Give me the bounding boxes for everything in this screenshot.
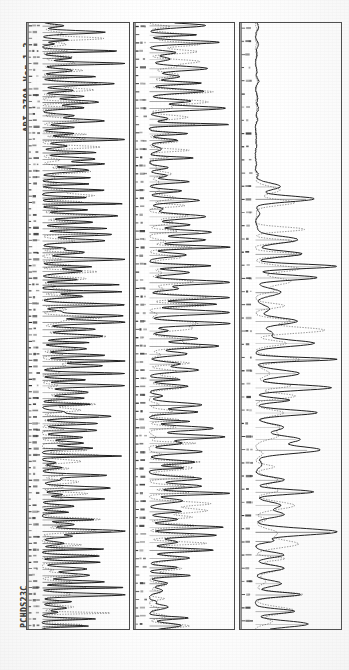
trace-plot-panel-2 <box>147 23 234 629</box>
trace-panel-3 <box>239 22 342 630</box>
base-call-axis-panel-3 <box>240 23 253 629</box>
printout-page: ABI 370A Ver 1.3 PCHDS23C <box>0 0 349 670</box>
trace-panel-2 <box>133 22 235 630</box>
trace-panel-1 <box>26 22 130 630</box>
trace-plot-panel-1 <box>40 23 129 629</box>
base-call-axis-panel-1 <box>27 23 40 629</box>
base-call-axis-panel-2 <box>134 23 147 629</box>
trace-plot-panel-3 <box>253 23 341 629</box>
